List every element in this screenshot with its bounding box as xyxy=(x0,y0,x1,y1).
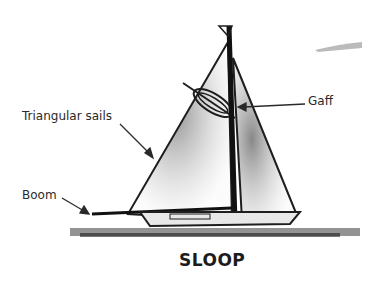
jib xyxy=(233,58,296,220)
sailboat-illustration xyxy=(0,0,383,282)
label-gaff: Gaff xyxy=(308,94,333,108)
label-boom: Boom xyxy=(22,188,57,202)
sloop-diagram: Triangular sails Gaff Boom SLOOP xyxy=(0,0,383,282)
hull xyxy=(140,212,300,226)
diagram-title: SLOOP xyxy=(179,250,245,270)
label-triangular-sails: Triangular sails xyxy=(22,109,112,123)
mainsail xyxy=(128,42,232,220)
